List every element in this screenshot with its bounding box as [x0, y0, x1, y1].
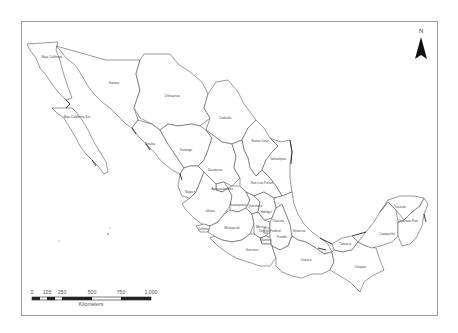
label-nuevo-leon: Nuevo León [251, 139, 268, 143]
mexico-map: Baja California Sonora Chihuahua Baja Ca… [0, 0, 458, 333]
label-michoacan: Michoacán [224, 226, 240, 230]
label-durango: Durango [180, 148, 192, 152]
label-guanajuato: Guanajuato [230, 203, 247, 207]
label-yucatan: Yucatán [394, 205, 406, 209]
label-coahuila: Coahuila [219, 116, 232, 120]
label-colima: Colima [198, 227, 208, 231]
label-quintana-roo: Quintana Roo [398, 219, 418, 223]
label-distrito-federal: Distrito Federal [259, 229, 281, 233]
label-nayarit: Nayarit [185, 190, 195, 194]
scale-tick-1000: 1,000 [145, 289, 158, 295]
label-sinaloa: Sinaloa [145, 142, 156, 146]
north-arrow: N [415, 27, 427, 59]
scale-tick-500: 500 [88, 289, 97, 295]
state-boundaries [27, 42, 428, 292]
label-baja-california: Baja California [42, 55, 63, 59]
label-chihuahua: Chihuahua [164, 94, 180, 98]
label-jalisco: Jalisco [205, 209, 215, 213]
label-baja-california-sur: Baja California Sur [64, 115, 92, 119]
label-zacatecas: Zacatecas [208, 168, 223, 172]
state-campeche[interactable] [358, 202, 398, 248]
label-chiapas: Chiapas [354, 265, 366, 269]
label-campeche: Campeche [379, 232, 395, 236]
label-guerrero: Guerrero [246, 248, 259, 252]
label-tlaxcala: Tlaxcala [272, 219, 284, 223]
label-oaxaca: Oaxaca [301, 258, 312, 262]
label-veracruz: Veracruz [293, 229, 306, 233]
scale-bar: 0 125 250 500 750 1,000 Kilometers [31, 289, 158, 307]
label-puebla: Puebla [277, 235, 287, 239]
scale-tick-0: 0 [31, 289, 34, 295]
north-label: N [418, 27, 423, 35]
label-tamaulipas: Tamaulipas [270, 157, 287, 161]
islands [58, 228, 110, 242]
label-tabasco: Tabasco [339, 242, 351, 246]
label-san-luis-potosi: San Luis Potosí [251, 181, 273, 185]
north-arrow-icon [415, 37, 427, 59]
state-chihuahua[interactable] [134, 54, 210, 130]
label-sonora: Sonora [109, 81, 120, 85]
scale-unit: Kilometers [79, 301, 104, 307]
label-morelos: Morelos [260, 238, 272, 242]
scale-tick-750: 750 [117, 289, 126, 295]
label-queretaro: Querétaro [248, 204, 263, 208]
label-hidalgo: Hidalgo [261, 210, 272, 214]
label-aguascalientes: Aguascalientes [211, 187, 233, 191]
scale-tick-125: 125 [43, 289, 52, 295]
scale-tick-250: 250 [58, 289, 67, 295]
